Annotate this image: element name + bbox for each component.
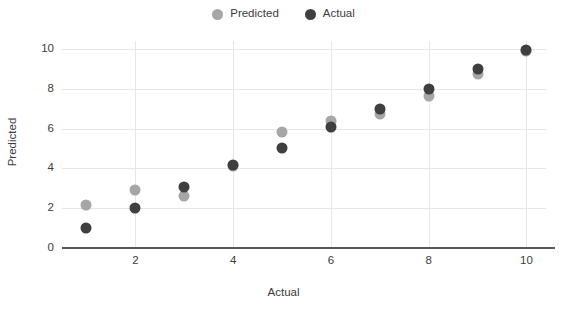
data-point-actual — [81, 223, 92, 234]
data-point-actual — [130, 203, 141, 214]
gridline-vertical — [135, 41, 136, 248]
y-axis-tick-label: 2 — [8, 202, 54, 214]
data-point-predicted — [81, 200, 92, 211]
data-point-actual — [374, 103, 385, 114]
x-axis-line — [62, 247, 555, 249]
legend-label-predicted: Predicted — [230, 8, 279, 20]
legend-item-actual[interactable]: Actual — [305, 8, 355, 20]
chart-legend: Predicted Actual — [0, 4, 567, 24]
y-axis-title: Predicted — [6, 102, 18, 182]
gridline-vertical — [331, 41, 332, 248]
data-point-predicted — [130, 185, 141, 196]
gridline-vertical — [429, 41, 430, 248]
x-axis-tick-label: 8 — [425, 255, 431, 267]
x-axis-tick-label: 4 — [230, 255, 236, 267]
legend-label-actual: Actual — [323, 8, 355, 20]
data-point-actual — [179, 182, 190, 193]
data-point-actual — [325, 121, 336, 132]
y-axis-tick-label: 0 — [8, 242, 54, 254]
gridline-vertical — [526, 41, 527, 248]
x-axis-tick-label: 10 — [520, 255, 533, 267]
data-point-actual — [521, 44, 532, 55]
data-point-actual — [277, 143, 288, 154]
x-axis-tick-label: 2 — [132, 255, 138, 267]
x-axis-title: Actual — [0, 286, 567, 298]
plot-area — [62, 41, 546, 248]
x-axis-tick-label: 6 — [328, 255, 334, 267]
gridline-vertical — [233, 41, 234, 248]
legend-marker-actual-icon — [305, 9, 316, 20]
data-point-actual — [423, 83, 434, 94]
legend-marker-predicted-icon — [212, 9, 223, 20]
data-point-predicted — [277, 126, 288, 137]
data-point-actual — [228, 160, 239, 171]
scatter-chart: Predicted Actual 0246810 Actual Predicte… — [0, 0, 567, 312]
legend-item-predicted[interactable]: Predicted — [212, 8, 279, 20]
data-point-actual — [472, 63, 483, 74]
y-axis-tick-label: 10 — [8, 43, 54, 55]
y-axis-tick-label: 8 — [8, 83, 54, 95]
